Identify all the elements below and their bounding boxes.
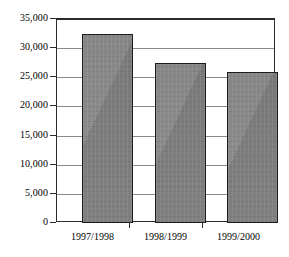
bar-texture [156,64,205,222]
y-axis-label-10000: 10,000 [20,159,48,169]
y-axis-label-20000: 20,000 [20,100,48,110]
bar-1998-1999 [155,63,206,223]
y-axis-label-0: 0 [43,217,48,227]
bar-1997-1998 [82,34,133,223]
x-axis-label-1997-1998: 1997/1998 [56,231,129,242]
plot-area [56,18,275,222]
y-axis-tick-0 [50,222,56,223]
y-axis-label-30000: 30,000 [20,42,48,52]
bar-1999-2000 [227,72,278,223]
bar-texture [83,35,132,222]
y-axis-label-25000: 25,000 [20,71,48,81]
x-axis-tick-2 [202,222,203,228]
y-axis-label-5000: 5,000 [25,188,48,198]
x-axis-label-1998-1999: 1998/1999 [129,231,202,242]
y-axis-label-35000: 35,000 [20,13,48,23]
gridline-35000 [57,19,274,20]
bar-texture [228,73,277,222]
x-axis-label-1999-2000: 1999/2000 [202,231,275,242]
x-axis-tick-1 [129,222,130,228]
bar-chart-figure: 35,000 30,000 25,000 20,000 15,000 10,00… [0,0,289,257]
y-axis-label-15000: 15,000 [20,130,48,140]
